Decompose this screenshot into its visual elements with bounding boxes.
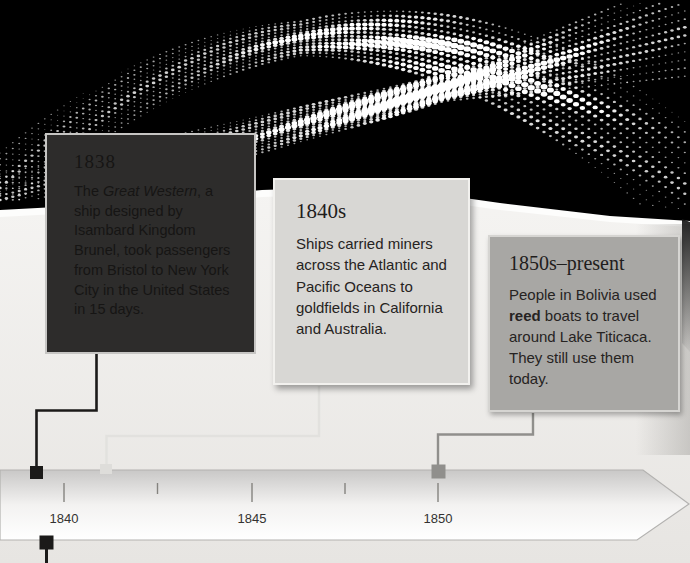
right-edge-shadow xyxy=(682,219,690,352)
marker-next-row-partial xyxy=(40,536,54,550)
marker-1838 xyxy=(30,466,43,479)
tick-label-1850: 1850 xyxy=(424,511,453,526)
event-card-1850s-body: People in Bolivia used reed boats to tra… xyxy=(509,284,669,389)
event-card-1840s: 1840s Ships carried miners across the At… xyxy=(273,178,470,385)
timeline-infographic: 1840 1845 1850 1838 The Great Western, a… xyxy=(0,0,690,563)
ship-name-italic: Great Western xyxy=(103,183,197,199)
body-text: Ships carried miners across the Atlantic… xyxy=(296,235,447,337)
tick-label-1840: 1840 xyxy=(50,511,79,526)
event-card-1850s-heading: 1850s–present xyxy=(509,252,669,275)
marker-1840s xyxy=(100,464,112,474)
keyword-bold: reed xyxy=(509,307,541,324)
body-text: The xyxy=(74,183,103,199)
tick-label-1845: 1845 xyxy=(238,511,267,526)
event-card-1840s-heading: 1840s xyxy=(296,199,457,224)
timeline-band-arrow xyxy=(0,470,689,540)
marker-1850s xyxy=(432,465,446,479)
event-card-1838: 1838 The Great Western, a ship designed … xyxy=(45,133,256,354)
body-text: People in Bolivia used xyxy=(509,286,657,303)
event-card-1850s-present: 1850s–present People in Bolivia used ree… xyxy=(488,235,680,412)
event-card-1838-body: The Great Western, a ship designed by Is… xyxy=(74,182,242,320)
event-card-1838-heading: 1838 xyxy=(74,151,242,173)
body-text: , a ship designed by Isambard Kingdom Br… xyxy=(74,183,230,317)
event-card-1840s-body: Ships carried miners across the Atlantic… xyxy=(296,233,457,339)
